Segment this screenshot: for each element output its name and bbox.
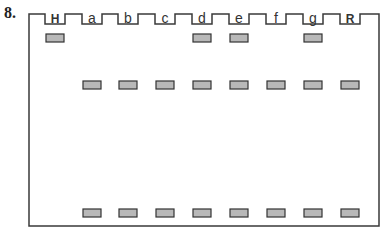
band-a-bottom (83, 209, 101, 217)
band-h-top (46, 34, 64, 42)
band-g-top (304, 34, 322, 42)
gel-outline (29, 14, 379, 226)
band-f-middle (267, 81, 285, 89)
band-g-middle (304, 81, 322, 89)
band-a-middle (83, 81, 101, 89)
lane-label-b: b (124, 10, 132, 26)
bands (46, 34, 359, 217)
band-d-bottom (193, 209, 211, 217)
band-d-top (193, 34, 211, 42)
lane-label-f: f (274, 10, 278, 26)
lane-label-h: H (51, 12, 60, 26)
band-e-top (230, 34, 248, 42)
band-e-bottom (230, 209, 248, 217)
band-e-middle (230, 81, 248, 89)
band-b-middle (119, 81, 137, 89)
band-r-middle (341, 81, 359, 89)
band-r-bottom (341, 209, 359, 217)
gel-diagram: HabcdefgR (0, 0, 389, 236)
band-c-middle (156, 81, 174, 89)
band-c-bottom (156, 209, 174, 217)
band-b-bottom (119, 209, 137, 217)
lane-label-c: c (162, 10, 169, 26)
lane-label-d: d (198, 10, 206, 26)
lane-label-e: e (235, 10, 243, 26)
band-g-bottom (304, 209, 322, 217)
band-f-bottom (267, 209, 285, 217)
lane-label-a: a (88, 10, 96, 26)
lane-label-g: g (309, 10, 317, 26)
lane-label-r: R (346, 12, 355, 26)
band-d-middle (193, 81, 211, 89)
